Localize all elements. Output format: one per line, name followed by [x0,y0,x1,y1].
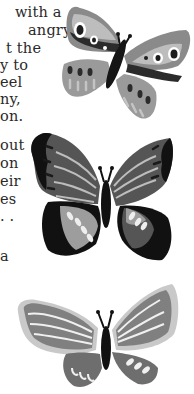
text-line: a [0,248,9,264]
text-line: . . [0,208,14,224]
butterfly-middle-illustration [26,126,176,266]
text-line: eir [0,173,21,189]
book-page: with a angry t the y to eel ny, on. out … [0,0,194,394]
text-line: t the [6,40,41,56]
text-line: with a [15,4,62,20]
text-line: out [0,137,25,153]
text-line: ny, [0,91,21,107]
butterfly-bottom-illustration [12,272,182,392]
text-line: on [0,155,18,171]
butterfly-top-illustration [58,0,194,125]
text-line: on. [0,108,23,124]
text-line: es [0,191,16,207]
text-line: eel [0,74,22,90]
text-line: y to [0,57,28,73]
